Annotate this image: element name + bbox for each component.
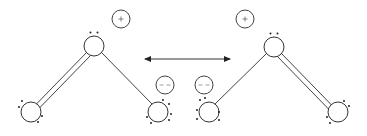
right-structure (195, 10, 350, 124)
single-bond (101, 52, 152, 104)
left-structure (18, 10, 174, 124)
double-bond (277, 53, 333, 111)
atom-bottom-right (328, 102, 348, 122)
positive-charge-icon (236, 10, 254, 28)
atom-bottom-left (199, 102, 219, 122)
atom-top (84, 36, 104, 56)
negative-charge-icon (195, 76, 213, 94)
atom-bottom-right (148, 102, 168, 122)
double-bond (35, 52, 91, 110)
atom-bottom-left (21, 102, 41, 122)
atom-top (264, 37, 284, 57)
positive-charge-icon (112, 10, 130, 28)
negative-charge-icon (156, 76, 174, 94)
resonance-diagram: Resonance structures (0, 0, 367, 136)
single-bond (215, 53, 267, 104)
